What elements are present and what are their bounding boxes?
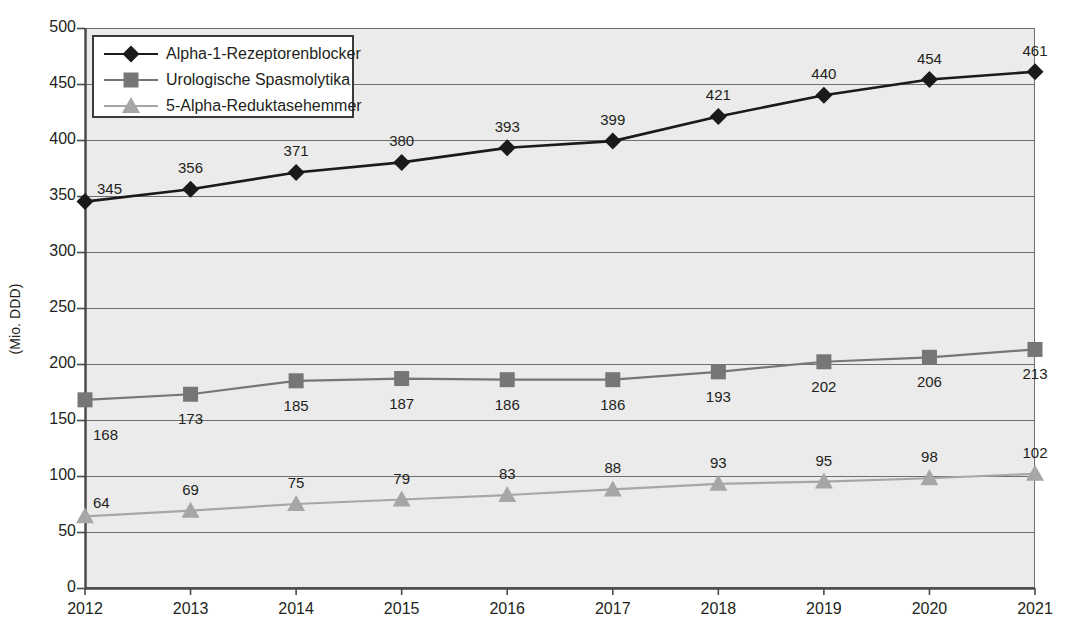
data-point-label: 186 (578, 396, 648, 413)
legend-item-3[interactable]: 5-Alpha-Reduktasehemmer (94, 93, 352, 119)
data-point-label: 75 (261, 474, 331, 491)
data-point-label: 64 (93, 494, 143, 511)
x-axis-tick-label: 2021 (1000, 600, 1070, 618)
data-point-label: 186 (472, 396, 542, 413)
y-axis-tick-label: 200 (24, 354, 76, 372)
x-axis-tick-label: 2013 (156, 600, 226, 618)
data-point-label: 356 (156, 159, 226, 176)
data-point-label: 193 (683, 388, 753, 405)
data-point-label: 102 (1000, 444, 1070, 461)
x-axis-tick-label: 2012 (50, 600, 120, 618)
data-point-label: 454 (894, 50, 964, 67)
data-point-label: 88 (578, 459, 648, 476)
data-point-label: 206 (894, 373, 964, 390)
x-axis-tick-label: 2018 (683, 600, 753, 618)
x-axis-tick-label: 2015 (367, 600, 437, 618)
data-point-label: 98 (894, 448, 964, 465)
data-point-label: 461 (1000, 42, 1070, 59)
square-marker-icon (78, 392, 93, 407)
x-axis-tick-label: 2020 (894, 600, 964, 618)
legend-item-label: 5-Alpha-Reduktasehemmer (160, 97, 362, 115)
y-axis-tick-label: 50 (24, 522, 76, 540)
data-point-label: 173 (156, 410, 226, 427)
legend-marker-sample (102, 41, 160, 67)
square-marker-icon (1028, 342, 1043, 357)
y-axis-tick-label: 450 (24, 74, 76, 92)
data-point-label: 371 (261, 142, 331, 159)
data-point-label: 93 (683, 454, 753, 471)
y-axis-tick-label: 400 (24, 130, 76, 148)
square-marker-icon (605, 372, 620, 387)
data-point-label: 79 (367, 470, 437, 487)
data-point-label: 380 (367, 132, 437, 149)
y-axis-ticks (77, 29, 85, 589)
triangle-marker-icon (122, 97, 140, 113)
legend-item-label: Alpha-1-Rezeptorenblocker (160, 45, 361, 63)
data-point-label: 213 (1000, 365, 1070, 382)
legend-item-2[interactable]: Urologische Spasmolytika (94, 67, 352, 93)
x-axis-tick-label: 2016 (472, 600, 542, 618)
data-point-label: 187 (367, 395, 437, 412)
x-axis-tick-label: 2019 (789, 600, 859, 618)
triangle-marker-icon (119, 94, 143, 118)
y-axis-tick-label: 0 (24, 578, 76, 596)
y-axis-tick-label: 150 (24, 410, 76, 428)
data-point-label: 83 (472, 465, 542, 482)
square-marker-icon (119, 68, 143, 92)
y-axis-tick-label: 500 (24, 18, 76, 36)
square-marker-icon (816, 354, 831, 369)
x-axis-tick-label: 2017 (578, 600, 648, 618)
data-point-label: 69 (156, 481, 226, 498)
data-point-label: 345 (97, 180, 147, 197)
y-axis-tick-label: 250 (24, 298, 76, 316)
data-point-label: 185 (261, 397, 331, 414)
data-point-label: 202 (789, 378, 859, 395)
y-axis-tick-label: 100 (24, 466, 76, 484)
data-point-label: 440 (789, 65, 859, 82)
square-marker-icon (289, 373, 304, 388)
data-point-label: 421 (683, 86, 753, 103)
data-point-label: 168 (93, 426, 143, 443)
square-marker-icon (183, 387, 198, 402)
legend-marker-sample (102, 67, 160, 93)
legend-item-label: Urologische Spasmolytika (160, 71, 350, 89)
y-axis-tick-label: 300 (24, 242, 76, 260)
diamond-marker-icon (119, 42, 143, 66)
data-point-label: 95 (789, 452, 859, 469)
chart-container: (Mio. DDD) 05010015020025030035040045050… (0, 0, 1070, 638)
diamond-marker-icon (123, 46, 140, 63)
x-axis-tick-label: 2014 (261, 600, 331, 618)
square-marker-icon (922, 350, 937, 365)
legend-item-1[interactable]: Alpha-1-Rezeptorenblocker (94, 41, 352, 67)
square-marker-icon (500, 372, 515, 387)
square-marker-icon (711, 364, 726, 379)
legend-marker-sample (102, 93, 160, 119)
square-marker-icon (124, 73, 139, 88)
square-marker-icon (394, 371, 409, 386)
data-point-label: 399 (578, 111, 648, 128)
chart-legend: Alpha-1-RezeptorenblockerUrologische Spa… (92, 35, 354, 118)
y-axis-tick-label: 350 (24, 186, 76, 204)
data-point-label: 393 (472, 118, 542, 135)
